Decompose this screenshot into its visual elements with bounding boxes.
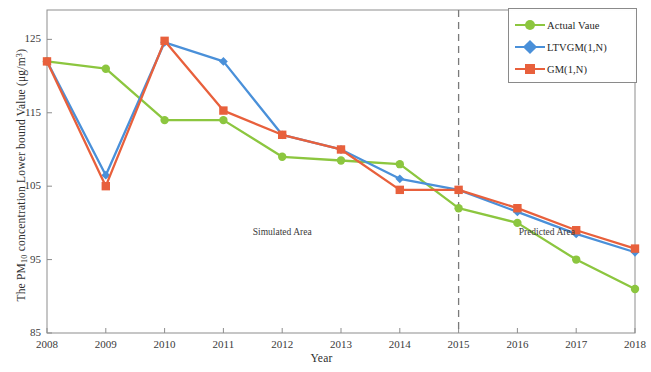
data-point [454,204,462,212]
legend-item-actual-value[interactable]: Actual Vaue [509,14,636,36]
data-point [102,65,110,73]
y-axis-title-close: ) [15,49,27,53]
area-annotation: Predicted Area [487,227,607,237]
data-point [396,186,404,194]
data-point [337,145,345,153]
y-tick-label: 85 [11,326,41,338]
legend-label-ltvgm: LTVGM(1,N) [545,42,607,53]
x-tick-label: 2018 [612,338,651,350]
x-tick-label: 2014 [377,338,423,350]
data-point [572,255,580,263]
legend-label-gm: GM(1,N) [545,64,587,75]
y-axis-title-rest: concentration Lower bound Value (μg/m [15,57,27,254]
data-point [43,57,51,65]
x-tick-label: 2011 [200,338,246,350]
legend-label-actual-value: Actual Vaue [545,20,600,31]
y-tick-label: 115 [11,106,41,118]
y-tick-label: 105 [11,179,41,191]
data-point [513,219,521,227]
data-point [631,285,639,293]
legend-marker-diamond-icon [515,40,545,54]
chart-legend: Actual Vaue LTVGM(1,N) GM(1,N) [508,8,637,83]
x-tick-label: 2012 [259,338,305,350]
area-annotation: Simulated Area [222,227,342,237]
data-point [219,116,227,124]
x-tick-label: 2015 [436,338,482,350]
y-tick-label: 95 [11,253,41,265]
y-tick-label: 125 [11,32,41,44]
data-point [278,131,286,139]
x-axis-title: Year [0,352,643,364]
data-point [278,153,286,161]
data-point [395,174,404,183]
data-point [160,37,168,45]
legend-marker-square-icon [515,62,545,76]
x-tick-label: 2016 [494,338,540,350]
x-tick-label: 2010 [142,338,188,350]
data-point [160,116,168,124]
x-tick-label: 2017 [553,338,599,350]
data-point [454,186,462,194]
axis-tick-marks [47,39,635,333]
y-axis-title-main: The PM [15,263,27,302]
data-point [631,244,639,252]
data-point [396,160,404,168]
data-point [102,182,110,190]
x-tick-label: 2009 [83,338,129,350]
data-point [337,156,345,164]
data-point [219,106,227,114]
y-axis-title-superscript: 3 [15,53,24,57]
legend-marker-circle-icon [515,18,545,32]
y-axis-title: The PM10 concentration Lower bound Value… [15,25,29,325]
data-point [513,204,521,212]
x-tick-label: 2013 [318,338,364,350]
legend-item-ltvgm[interactable]: LTVGM(1,N) [509,36,636,58]
legend-item-gm[interactable]: GM(1,N) [509,58,636,80]
series-line-0 [47,61,635,289]
x-tick-label: 2008 [24,338,70,350]
